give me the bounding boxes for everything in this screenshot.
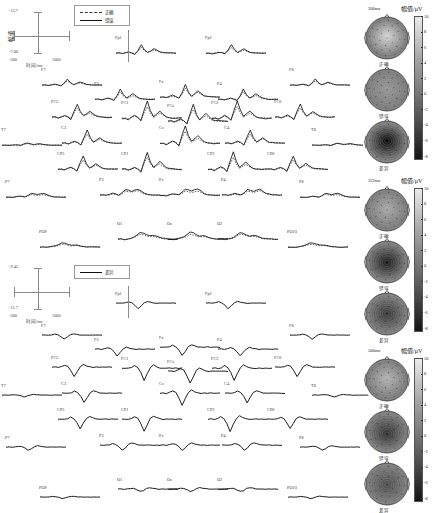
electrode-dot	[385, 449, 386, 450]
electrode-dot	[392, 420, 393, 421]
topo-group-1: 200ms正确错误差异幅值/μV1086420-2-4-6-8	[355, 4, 436, 170]
electrode-dot	[379, 21, 380, 22]
colorbar-tick-mark	[421, 219, 423, 220]
electrode-dot	[381, 427, 382, 428]
colorbar-tick-mark	[421, 204, 423, 205]
electrode-dot	[397, 469, 398, 470]
electrode-dot	[374, 140, 375, 141]
electrode-dot	[385, 159, 386, 160]
waveform-trace-group	[2, 128, 62, 154]
electrode-dot	[385, 331, 386, 332]
colorbar-tick: 8	[424, 371, 426, 376]
electrode-label-t8: T8	[311, 383, 316, 388]
electrode-label-pz: Pz	[159, 177, 163, 182]
colorbar-tick-mark	[421, 467, 423, 468]
electrode-dot	[374, 430, 375, 431]
waveform-cz: Cz	[160, 126, 220, 152]
electrode-dot	[392, 146, 393, 147]
electrode-dot	[394, 396, 395, 397]
waveform-p8: P8	[300, 180, 360, 206]
trace-difference	[62, 391, 122, 403]
electrode-label-p7: P7	[5, 179, 10, 184]
electrode-dot	[401, 272, 402, 273]
trace-error	[52, 104, 112, 119]
waveform-trace-group	[300, 436, 360, 462]
electrode-dot	[400, 263, 401, 264]
waveform-trace-group	[160, 434, 220, 460]
electrode-label-f3: F3	[94, 337, 99, 342]
waveform-p7: P7	[6, 180, 66, 206]
electrode-dot	[392, 250, 393, 251]
electrode-dot	[404, 485, 405, 486]
electrode-dot	[370, 439, 371, 440]
electrode-label-fc5: FC5	[51, 355, 59, 360]
electrode-dot	[392, 302, 393, 303]
electrode-label-o2: O2	[217, 477, 222, 482]
electrode-dot	[376, 104, 377, 105]
electrode-dot	[369, 208, 370, 209]
waveform-fc2: FC2	[212, 357, 272, 383]
electrode-label-cp2: CP2	[207, 407, 215, 412]
waveform-f7: F7	[42, 324, 102, 350]
electrode-dot	[394, 54, 395, 55]
time-zero-marker-lower	[128, 286, 129, 318]
electrode-label-cp1: CP1	[121, 407, 129, 412]
electrode-dot	[400, 211, 401, 212]
trace-difference	[6, 446, 66, 451]
electrode-dot	[392, 42, 393, 43]
electrode-dot	[388, 306, 389, 307]
electrode-label-c3: C3	[61, 125, 66, 130]
electrode-dot	[380, 486, 381, 487]
colorbar-tick-mark	[421, 266, 423, 267]
electrode-dot	[380, 212, 381, 213]
electrode-dot	[384, 197, 385, 198]
electrode-dot	[372, 251, 373, 252]
electrode-dot	[397, 299, 398, 300]
electrode-dot	[397, 75, 398, 76]
waveform-trace-group	[100, 178, 160, 204]
electrode-dot	[388, 476, 389, 477]
colorbar-tick-mark	[421, 156, 423, 157]
electrode-dot	[403, 306, 404, 307]
electrode-dot	[392, 130, 393, 131]
waveform-trace-group	[62, 126, 122, 152]
electrode-label-p3: P3	[99, 177, 104, 182]
electrode-label-fz: Fz	[159, 79, 163, 84]
electrode-dot	[387, 210, 388, 211]
trace-difference	[268, 417, 328, 429]
electrode-dot	[376, 446, 377, 447]
topo-time-label: 500ms	[368, 348, 380, 353]
electrode-label-c3: C3	[61, 381, 66, 386]
waveform-trace-group	[225, 382, 285, 408]
electrode-dot	[398, 135, 399, 136]
electrode-label-t8: T8	[311, 127, 316, 132]
electrode-dot	[374, 378, 375, 379]
electrode-dot	[392, 368, 393, 369]
trace-error	[160, 126, 220, 146]
electrode-label-oz: Oz	[167, 221, 172, 226]
waveform-cz: Cz	[160, 382, 220, 408]
trace-difference	[2, 394, 62, 397]
electrode-dot	[379, 297, 380, 298]
electrode-dot	[396, 440, 397, 441]
colorbar-tick: 8	[424, 201, 426, 206]
trace-difference	[300, 446, 360, 450]
colorbar-tick-mark	[421, 188, 423, 189]
electrode-dot	[384, 419, 385, 420]
electrode-dot	[369, 430, 370, 431]
trace-difference	[218, 347, 278, 356]
electrode-dot	[394, 87, 395, 88]
colorbar-tick-mark	[421, 140, 423, 141]
electrode-dot	[372, 27, 373, 28]
colorbar-tick: 10	[424, 186, 428, 191]
waveform-trace-group	[52, 100, 112, 126]
electrode-label-po10: PO10	[287, 229, 297, 234]
electrode-dot	[369, 378, 370, 379]
waveform-trace-group	[290, 324, 350, 350]
electrode-dot	[385, 501, 386, 502]
topomap-svg	[363, 118, 411, 166]
electrode-dot	[372, 473, 373, 474]
topomap-2-3	[363, 290, 411, 338]
electrode-dot	[385, 45, 386, 46]
